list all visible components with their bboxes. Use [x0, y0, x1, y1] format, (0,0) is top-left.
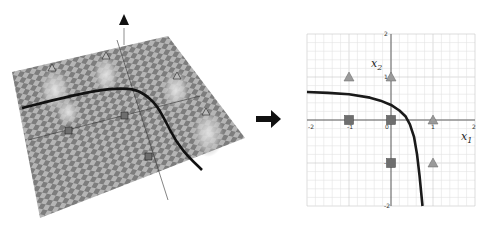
y-tick-label: 2 — [384, 30, 388, 37]
scatter-plot: -2-1012-2-112 x2 x1 — [0, 0, 489, 225]
triangle-marker — [428, 115, 438, 124]
y-axis-title: x2 — [371, 57, 382, 72]
triangle-marker — [344, 72, 354, 81]
y-tick-label: -2 — [384, 202, 390, 209]
square-marker — [387, 159, 396, 168]
x-tick-label: 2 — [472, 123, 476, 130]
x-tick-label: -2 — [308, 123, 314, 130]
triangle-marker — [428, 158, 438, 167]
square-marker — [387, 116, 396, 125]
x-axis-title: x1 — [461, 130, 472, 145]
square-marker — [345, 116, 354, 125]
